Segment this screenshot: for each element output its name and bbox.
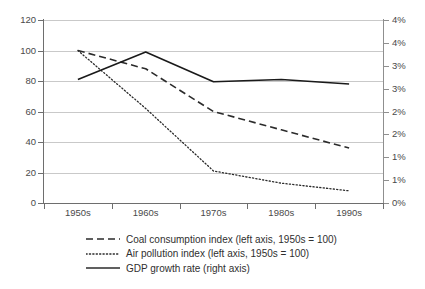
series-line-2 [78,51,349,191]
legend-item: Coal consumption index (left axis, 1950s… [86,232,376,247]
legend-item-label: Coal consumption index (left axis, 1950s… [126,234,337,245]
legend-swatch-dashed-icon [86,234,120,244]
chart-legend: Coal consumption index (left axis, 1950s… [86,232,376,276]
series-line-1 [78,51,349,149]
chart-container: 020406080100120 0%1%1%2%2%3%3%4%4% 1950s… [0,0,425,289]
legend-item: Air pollution index (left axis, 1950s = … [86,247,376,262]
legend-swatch-solid-icon [86,263,120,273]
legend-item-label: GDP growth rate (right axis) [126,263,250,274]
legend-item-label: Air pollution index (left axis, 1950s = … [126,248,309,259]
legend-swatch-dotted-icon [86,249,120,259]
legend-item: GDP growth rate (right axis) [86,261,376,276]
series-line-3 [78,52,349,84]
